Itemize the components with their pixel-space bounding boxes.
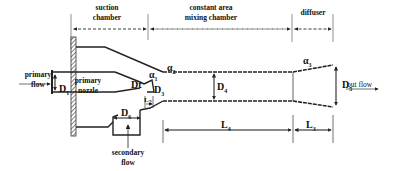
mixing-chamber-label: constant area mixing chamber [185,4,237,21]
mixing-label-line1: constant area [185,4,237,12]
d5-label: D5 [342,80,352,92]
d1-label: D1 [59,84,69,96]
diffuser [293,65,333,107]
primary-nozzle-line2: nozzle [75,87,102,95]
suction-label-line1: suction [93,4,121,12]
diffuser-label: diffuser [301,9,326,17]
primary-nozzle-label: primary nozzle [75,77,102,94]
d4-label: D4 [217,82,227,94]
l3-label: L3 [306,120,316,132]
primary-nozzle-line1: primary [75,77,102,85]
alpha1-label: α1 [149,70,158,82]
primary-flow-line2: flow [25,81,52,89]
secondary-flow-line2: flow [112,159,145,167]
secondary-flow-line1: secondary [112,149,145,157]
d6-label: D6 [121,108,131,120]
mixing-chamber [163,72,293,101]
mixing-label-line2: mixing chamber [185,14,237,22]
alpha3-label: α3 [303,56,312,68]
primary-flow-line1: primary [25,71,52,79]
alpha2-label: α2 [167,63,176,75]
suction-chamber-label: suction chamber [93,4,121,21]
ejector-diagram: suction chamber constant area mixing cha… [0,0,404,171]
d3-label: D3 [154,85,164,97]
primary-flow-label: primary flow [25,71,52,88]
secondary-flow-label: secondary flow [112,149,145,166]
dt-label: Dt [131,80,142,90]
l4-label: L4 [221,120,231,132]
l2-label: L2 [144,97,152,105]
suction-label-line2: chamber [93,14,121,22]
